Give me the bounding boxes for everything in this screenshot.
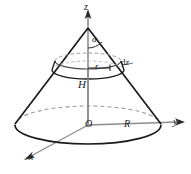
origin-label: O bbox=[85, 119, 92, 129]
cone-diagram-figure: z y x O R H r α dz bbox=[0, 0, 191, 174]
height-label: H bbox=[78, 79, 86, 90]
x-axis-label: x bbox=[29, 152, 33, 162]
slab-thickness-label: dz bbox=[121, 58, 129, 67]
z-axis-label: z bbox=[84, 2, 88, 12]
cone-diagram-canvas bbox=[0, 0, 191, 174]
slab-thickness-z-part: z bbox=[126, 57, 130, 67]
base-radius-label: R bbox=[124, 119, 130, 129]
y-axis-label: y bbox=[173, 117, 177, 127]
apex-half-angle-label: α bbox=[92, 35, 97, 44]
axes-group bbox=[24, 9, 185, 160]
x-axis-line bbox=[31, 125, 88, 156]
cone-left-slant-edge bbox=[15, 28, 88, 124]
shell-radius-label: r bbox=[95, 62, 99, 71]
shell-left-wall bbox=[52, 61, 55, 70]
y-axis-line bbox=[88, 122, 178, 125]
cone-right-slant-edge bbox=[88, 28, 161, 124]
